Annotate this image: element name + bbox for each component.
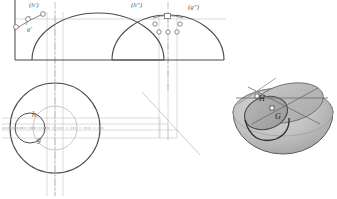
technical-drawing-canvas [0, 0, 337, 199]
label-g-pictorial: G [275, 113, 281, 121]
front-point-marker-3 [41, 12, 46, 17]
front-view-group [14, 0, 164, 60]
label-h-top-view: h [32, 111, 36, 119]
front-point-marker-1 [14, 25, 19, 30]
label-h-double-prime: (h") [131, 2, 142, 9]
side-view-point-markers [153, 22, 182, 34]
side-point-marker-5 [175, 30, 179, 34]
side-view-square-marker [165, 14, 171, 19]
front-dome-arc [32, 13, 164, 60]
label-h-pictorial: H [259, 95, 265, 103]
label-g-top-view: g [37, 136, 41, 144]
pictorial-3d-group [233, 76, 333, 154]
label-g-double-prime: (g") [188, 4, 199, 11]
point-marker-g-3d [270, 106, 274, 110]
side-point-marker-4 [166, 30, 170, 34]
label-h-prime: (h') [29, 2, 39, 9]
side-point-marker-1 [153, 22, 157, 26]
front-point-marker-2 [26, 17, 31, 22]
side-point-marker-3 [157, 30, 161, 34]
forty-five-degree-miter-line [142, 92, 200, 155]
drawing-sheet: (h') g' (h") (g") h g H G [0, 0, 337, 199]
side-point-marker-2 [178, 22, 182, 26]
label-g-prime: g' [27, 26, 32, 33]
